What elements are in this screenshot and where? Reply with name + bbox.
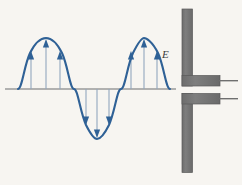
paper-background bbox=[0, 0, 242, 185]
figure-canvas bbox=[0, 0, 242, 185]
antenna-lower-horizontal-segment bbox=[182, 94, 220, 105]
electric-field-label: E bbox=[162, 49, 169, 60]
antenna-upper-vertical-segment bbox=[182, 9, 193, 86]
antenna-upper-horizontal-segment bbox=[182, 76, 220, 87]
antenna-lower-vertical-segment bbox=[182, 94, 193, 173]
wave-antenna-figure: E bbox=[0, 0, 242, 185]
